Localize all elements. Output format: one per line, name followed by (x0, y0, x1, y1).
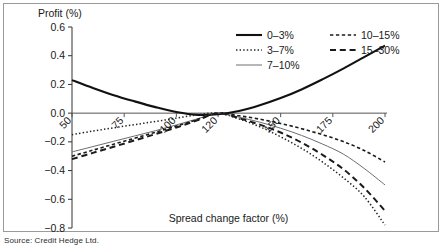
svg-text:0.4: 0.4 (50, 49, 65, 61)
legend-label-0–3%: 0–3% (267, 29, 294, 41)
svg-text:0.6: 0.6 (50, 21, 65, 33)
profit-vs-spread-chart: 0.60.40.20.0−0.2−0.4−0.6−0.8507510012015… (0, 0, 444, 251)
svg-text:−0.4: −0.4 (44, 164, 65, 176)
legend-label-7–10%: 7–10% (267, 59, 300, 71)
series-line-3-7% (72, 113, 385, 225)
legend-label-3–7%: 3–7% (267, 44, 294, 56)
svg-text:175: 175 (313, 114, 334, 135)
chart-legend: 0–3%3–7%7–10%10–15%15–30% (236, 29, 400, 71)
svg-text:Profit (%): Profit (%) (38, 7, 82, 19)
svg-text:Spread change factor (%): Spread change factor (%) (169, 212, 289, 224)
legend-label-10–15%: 10–15% (361, 29, 400, 41)
source-note: Source: Credit Hedge Ltd. (4, 236, 99, 245)
svg-text:0.2: 0.2 (50, 78, 65, 90)
svg-text:−0.8: −0.8 (44, 222, 65, 234)
series-lines (72, 46, 385, 225)
svg-text:−0.6: −0.6 (44, 193, 65, 205)
legend-label-15–30%: 15–30% (361, 44, 400, 56)
axis-labels: 0.60.40.20.0−0.2−0.4−0.6−0.8507510012015… (38, 7, 387, 234)
svg-text:−0.2: −0.2 (44, 135, 65, 147)
series-line-0-3% (72, 46, 385, 115)
chart-figure: 0.60.40.20.0−0.2−0.4−0.6−0.8507510012015… (0, 0, 444, 251)
svg-text:200: 200 (366, 114, 387, 135)
